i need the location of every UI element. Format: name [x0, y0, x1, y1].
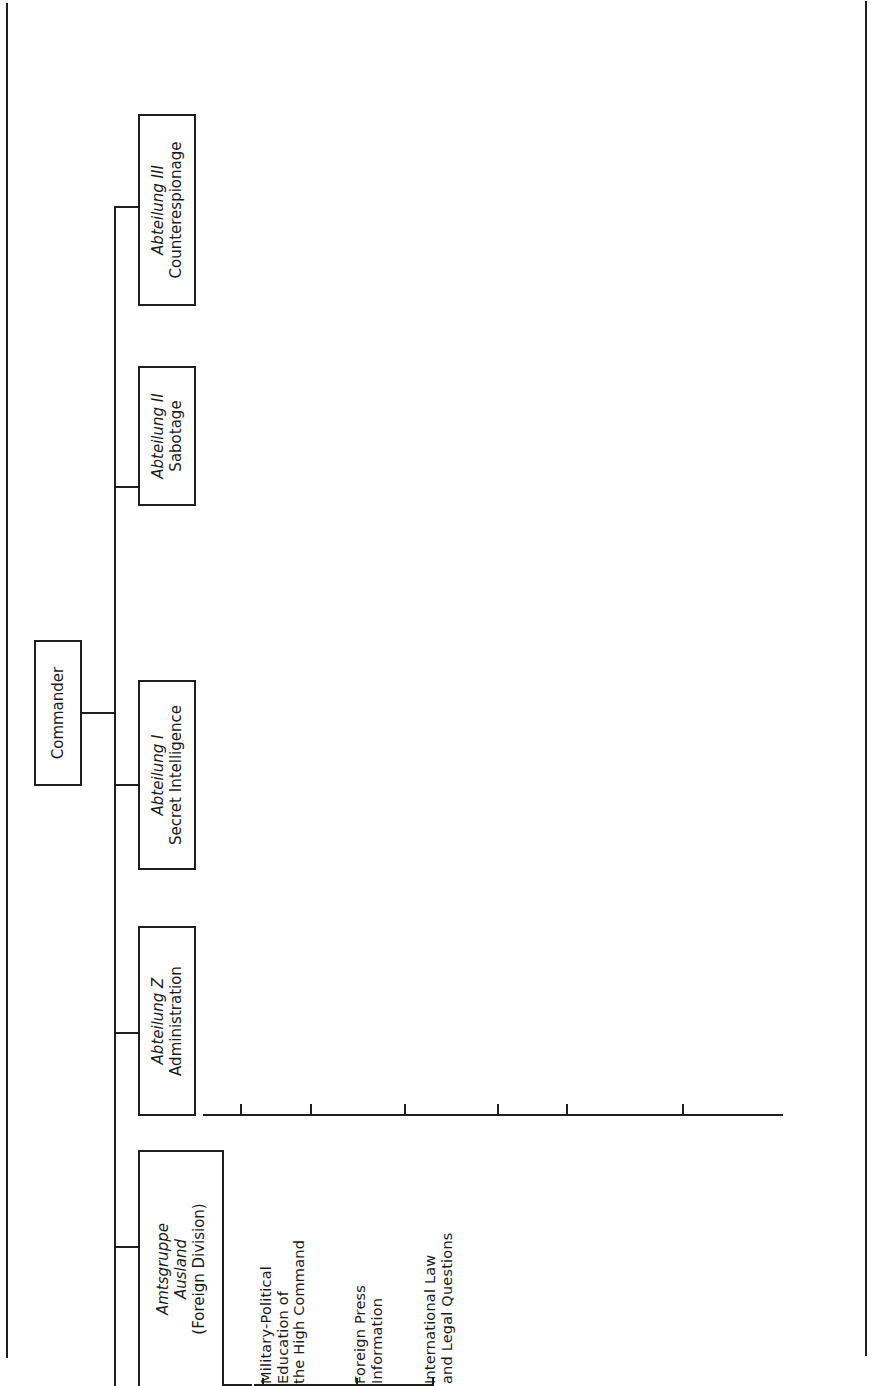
drop-abt3 [114, 206, 140, 208]
division-box-abt1[interactable]: Abteilung I Secret Intelligence [138, 680, 196, 870]
division-box-abt3[interactable]: Abteilung III Counterespionage [138, 114, 196, 306]
drop-ausland [114, 1246, 140, 1248]
ausland-tick2 [356, 1378, 358, 1386]
drop-abt2 [114, 486, 140, 488]
division-subtitle: Sabotage [167, 400, 185, 471]
division-name-line1: Amtsgruppe [154, 1223, 172, 1315]
unit-military-political[interactable]: Military-Political Education of the High… [258, 1240, 308, 1384]
division-box-ausland[interactable]: Amtsgruppe Ausland (Foreign Division) [138, 1150, 224, 1386]
unit-foreign-press[interactable]: Foreign Press Information [352, 1285, 385, 1384]
z-tick-zo [682, 1104, 684, 1116]
ausland-tick3 [432, 1378, 434, 1386]
division-name: Abteilung I [149, 735, 167, 816]
org-chart: Commander Amtsgruppe Ausland (Foreign Di… [0, 0, 872, 1386]
page-rule-top [6, 3, 8, 1358]
z-lane-h [203, 1114, 205, 1116]
commander-label: Commander [49, 667, 67, 760]
division-box-z[interactable]: Abteilung Z Administration [138, 926, 196, 1116]
division-subtitle: Administration [167, 966, 185, 1076]
z-lane [203, 1114, 783, 1116]
division-name-line2: Ausland [172, 1239, 190, 1299]
z-tick-arch [240, 1104, 242, 1116]
commander-box[interactable]: Commander [34, 640, 82, 786]
z-tick-zk [310, 1104, 312, 1116]
unit-international-law[interactable]: International Law and Legal Questions [422, 1232, 455, 1384]
page-rule-bottom [865, 1, 867, 1356]
division-subtitle: (Foreign Division) [190, 1203, 208, 1334]
ausland-tick1 [262, 1378, 264, 1386]
division-subtitle: Counterespionage [167, 142, 185, 279]
drop-abt1 [114, 784, 140, 786]
main-spine [114, 206, 116, 1386]
z-tick-zb [566, 1104, 568, 1116]
division-name: Abteilung III [149, 165, 167, 255]
division-box-abt2[interactable]: Abteilung II Sabotage [138, 366, 196, 506]
z-tick-reg [497, 1104, 499, 1116]
z-tick-zkv [404, 1104, 406, 1116]
commander-connector [82, 712, 115, 714]
division-subtitle: Secret Intelligence [167, 705, 185, 845]
division-name: Abteilung II [149, 393, 167, 478]
division-name: Abteilung Z [149, 978, 167, 1065]
drop-z [114, 1032, 140, 1034]
